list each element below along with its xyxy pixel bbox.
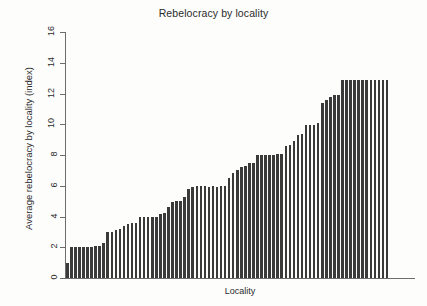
bar bbox=[357, 80, 360, 278]
y-tick-label-text: 0 bbox=[48, 274, 58, 279]
bar bbox=[102, 243, 105, 278]
bar bbox=[70, 247, 73, 278]
bar bbox=[268, 155, 271, 278]
bar bbox=[183, 197, 186, 278]
y-tick-label-text: 14 bbox=[46, 57, 56, 67]
bar bbox=[167, 207, 170, 278]
bar bbox=[115, 230, 118, 278]
bar bbox=[325, 100, 328, 278]
bar bbox=[276, 154, 279, 278]
x-axis-line bbox=[65, 278, 415, 279]
y-tick-label: 6 bbox=[0, 180, 56, 190]
bar bbox=[252, 163, 255, 278]
bar bbox=[66, 263, 69, 278]
y-tick-mark bbox=[60, 94, 65, 95]
bar bbox=[179, 201, 182, 278]
bar bbox=[374, 80, 377, 278]
bar bbox=[163, 213, 166, 278]
bar bbox=[256, 155, 259, 278]
bar bbox=[123, 226, 126, 278]
bar bbox=[86, 247, 89, 278]
bar bbox=[216, 187, 219, 278]
bar bbox=[90, 247, 93, 278]
bar bbox=[74, 247, 77, 278]
y-tick-label-text: 4 bbox=[48, 213, 58, 218]
bar bbox=[143, 217, 146, 279]
y-tick-mark bbox=[60, 217, 65, 218]
bar bbox=[309, 125, 312, 278]
bar bbox=[187, 189, 190, 278]
bar bbox=[365, 80, 368, 278]
bar bbox=[98, 246, 101, 278]
bar bbox=[147, 217, 150, 279]
y-tick-label: 14 bbox=[0, 57, 56, 67]
bar bbox=[313, 125, 316, 278]
bar bbox=[333, 95, 336, 278]
y-tick-mark bbox=[60, 186, 65, 187]
chart-title: Rebelocracy by locality bbox=[0, 7, 427, 19]
bar bbox=[289, 145, 292, 278]
bar bbox=[106, 232, 109, 278]
bar bbox=[220, 186, 223, 278]
y-tick-label-text: 10 bbox=[46, 118, 56, 128]
y-tick-mark bbox=[60, 63, 65, 64]
bar bbox=[94, 246, 97, 278]
bar bbox=[171, 202, 174, 278]
bar bbox=[224, 186, 227, 278]
bar bbox=[240, 167, 243, 278]
y-tick-mark bbox=[60, 32, 65, 33]
y-tick-mark bbox=[60, 155, 65, 156]
y-tick-label-text: 6 bbox=[48, 182, 58, 187]
bar bbox=[272, 155, 275, 278]
y-tick-mark bbox=[60, 124, 65, 125]
bar bbox=[111, 232, 114, 278]
bar bbox=[204, 186, 207, 278]
bar bbox=[382, 80, 385, 278]
bar bbox=[135, 223, 138, 278]
bar bbox=[175, 201, 178, 278]
bar bbox=[370, 80, 373, 278]
bar bbox=[208, 187, 211, 278]
bar bbox=[212, 186, 215, 278]
bar-series bbox=[66, 32, 414, 278]
bar bbox=[260, 155, 263, 278]
bar bbox=[386, 80, 389, 278]
bar bbox=[236, 170, 239, 278]
y-tick-label: 0 bbox=[0, 272, 56, 282]
bar bbox=[131, 223, 134, 278]
bar bbox=[78, 247, 81, 278]
bar bbox=[139, 217, 142, 279]
y-tick-label-text: 12 bbox=[46, 87, 56, 97]
bar bbox=[82, 247, 85, 278]
y-tick-mark bbox=[60, 247, 65, 248]
bar bbox=[248, 163, 251, 278]
bar bbox=[305, 125, 308, 278]
y-tick-label: 10 bbox=[0, 118, 56, 128]
plot-area bbox=[66, 32, 414, 278]
bar bbox=[151, 217, 154, 279]
bar bbox=[228, 178, 231, 278]
bar bbox=[361, 80, 364, 278]
y-tick-label-text: 8 bbox=[48, 151, 58, 156]
bar bbox=[345, 80, 348, 278]
chart-figure: Rebelocracy by locality Average rebelocr… bbox=[0, 0, 427, 306]
y-tick-label-text: 16 bbox=[46, 26, 56, 36]
bar bbox=[293, 141, 296, 278]
bar bbox=[337, 95, 340, 278]
bar bbox=[321, 103, 324, 278]
bar bbox=[329, 97, 332, 278]
bar bbox=[155, 217, 158, 279]
bar bbox=[297, 135, 300, 278]
bar bbox=[264, 155, 267, 278]
bar bbox=[317, 123, 320, 278]
y-tick-label-text: 2 bbox=[48, 244, 58, 249]
bar bbox=[196, 186, 199, 278]
y-tick-label: 2 bbox=[0, 241, 56, 251]
bar bbox=[349, 80, 352, 278]
bar bbox=[244, 166, 247, 278]
bar bbox=[200, 186, 203, 278]
bar bbox=[127, 224, 130, 278]
bar bbox=[191, 187, 194, 278]
bar bbox=[280, 154, 283, 278]
y-tick-label: 8 bbox=[0, 149, 56, 159]
